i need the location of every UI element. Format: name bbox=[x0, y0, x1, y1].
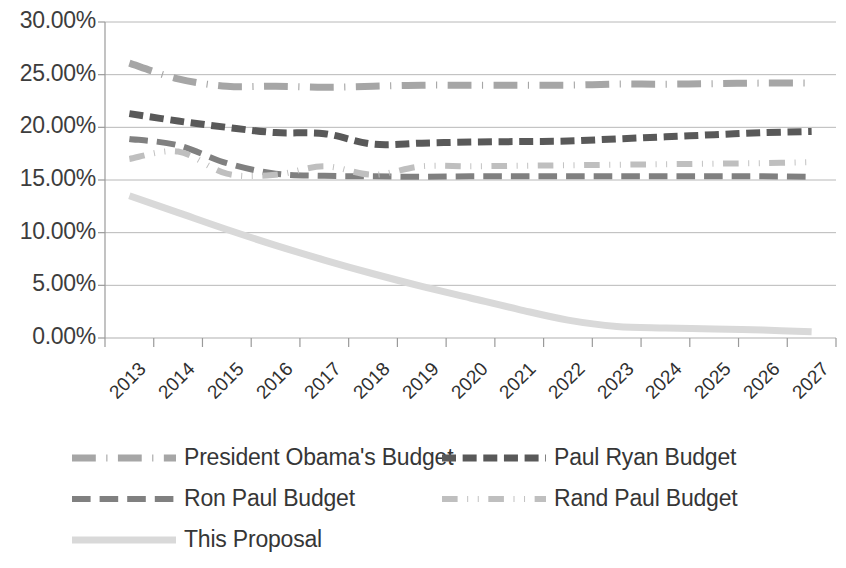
y-axis-ticks bbox=[98, 22, 105, 338]
legend-key-rand-paul-budget bbox=[440, 488, 548, 510]
legend-row-3: This Proposal bbox=[70, 519, 810, 560]
data-series-group bbox=[129, 63, 811, 332]
y-axis-tick-label: 20.00% bbox=[0, 112, 96, 139]
legend-key-ron-paul-budget bbox=[70, 488, 178, 510]
legend-row-1: President Obama's Budget Paul Ryan Budge… bbox=[70, 437, 810, 478]
y-axis-tick-label: 0.00% bbox=[0, 323, 96, 350]
legend-row-2: Ron Paul Budget Rand Paul Budget bbox=[70, 478, 810, 519]
y-axis-tick-label: 30.00% bbox=[0, 7, 96, 34]
legend-item-president-obamas-budget[interactable]: President Obama's Budget bbox=[70, 437, 453, 478]
budget-comparison-chart: 0.00%5.00%10.00%15.00%20.00%25.00%30.00%… bbox=[0, 0, 846, 568]
legend-label-paul-ryan-budget: Paul Ryan Budget bbox=[554, 444, 736, 471]
legend-key-this-proposal bbox=[70, 529, 178, 551]
legend-item-rand-paul-budget[interactable]: Rand Paul Budget bbox=[440, 478, 738, 519]
legend-item-this-proposal[interactable]: This Proposal bbox=[70, 519, 322, 560]
y-axis-tick-label: 15.00% bbox=[0, 165, 96, 192]
x-axis-ticks bbox=[105, 338, 836, 347]
legend-key-president-obamas-budget bbox=[70, 447, 178, 469]
y-axis-tick-label: 25.00% bbox=[0, 60, 96, 87]
legend-label-president-obamas-budget: President Obama's Budget bbox=[184, 444, 453, 471]
legend-key-paul-ryan-budget bbox=[440, 447, 548, 469]
legend-item-ron-paul-budget[interactable]: Ron Paul Budget bbox=[70, 478, 355, 519]
legend-label-rand-paul-budget: Rand Paul Budget bbox=[554, 485, 738, 512]
series-line-rand-paul-budget bbox=[129, 151, 811, 176]
legend-item-paul-ryan-budget[interactable]: Paul Ryan Budget bbox=[440, 437, 736, 478]
legend-label-ron-paul-budget: Ron Paul Budget bbox=[184, 485, 355, 512]
legend-label-this-proposal: This Proposal bbox=[184, 526, 322, 553]
y-axis-tick-label: 10.00% bbox=[0, 218, 96, 245]
series-line-paul-ryan-budget bbox=[129, 114, 811, 145]
series-line-this-proposal bbox=[129, 196, 811, 332]
gridlines bbox=[105, 22, 836, 338]
series-line-president-obama-s-budget bbox=[129, 63, 811, 87]
y-axis-tick-label: 5.00% bbox=[0, 270, 96, 297]
chart-legend: President Obama's Budget Paul Ryan Budge… bbox=[70, 437, 810, 560]
